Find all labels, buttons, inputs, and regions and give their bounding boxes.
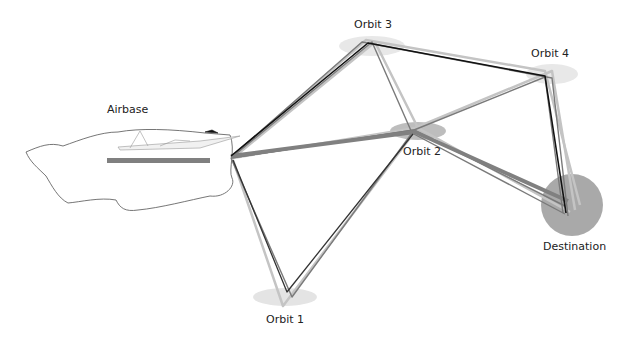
- orbit4-label: Orbit 4: [531, 47, 569, 60]
- aircraft-icon: [118, 130, 240, 150]
- destination-zone: [541, 174, 603, 236]
- orbit2-label: Orbit 2: [403, 145, 441, 158]
- runway: [107, 158, 210, 163]
- airbase-label: Airbase: [107, 103, 148, 116]
- destination-label: Destination: [543, 240, 606, 253]
- route-light: [233, 40, 580, 306]
- orbit3-label: Orbit 3: [354, 18, 392, 31]
- flight-routes-diagram: Airbase Orbit 1 Orbit 2 Orbit 3 Orbit 4 …: [0, 0, 627, 341]
- route-primary-band: [231, 132, 568, 201]
- route-mid: [231, 42, 568, 297]
- orbit1-label: Orbit 1: [266, 313, 304, 326]
- route-dark-orbit1: [233, 134, 413, 292]
